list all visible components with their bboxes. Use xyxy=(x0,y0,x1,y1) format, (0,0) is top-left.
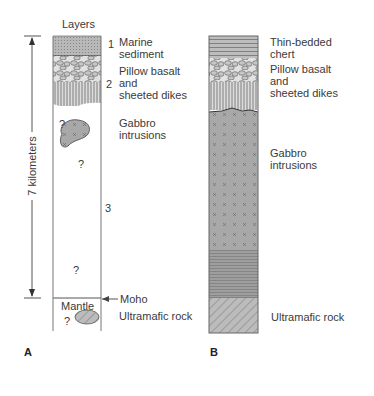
layer-2-number: 2 xyxy=(106,78,112,90)
panel-a-letter: A xyxy=(24,346,32,358)
gabbro-label-a: Gabbro intrusions xyxy=(119,117,166,141)
chert-layer xyxy=(209,36,258,58)
column-a xyxy=(53,36,101,331)
ultramafic-label-a: Ultramafic rock xyxy=(119,310,192,322)
chert-label: Thin-bedded chert xyxy=(270,36,332,60)
panel-b-letter: B xyxy=(210,346,218,358)
marine-sediment-layer xyxy=(53,36,101,56)
layer-3-number: 3 xyxy=(105,202,111,214)
pillow-basalt-label-a: Pillow basalt and sheeted dikes xyxy=(119,65,187,101)
moho-arrow xyxy=(102,296,118,302)
ultramafic-label-b: Ultramafic rock xyxy=(271,311,344,323)
unknown-marker: ? xyxy=(64,315,70,327)
scale-label: 7 kilometers xyxy=(26,126,38,206)
column-b xyxy=(209,36,258,333)
ultramafic-layer-b xyxy=(209,298,258,333)
gabbro-label-b: Gabbro intrusions xyxy=(270,147,317,171)
mantle-label: Mantle xyxy=(61,300,94,312)
pillow-basalt-layer-b xyxy=(209,58,258,82)
marine-sediment-label: Marine sediment xyxy=(119,36,164,60)
pillow-basalt-layer xyxy=(53,56,101,82)
unknown-marker: ? xyxy=(73,264,79,276)
unknown-marker: ? xyxy=(59,118,65,130)
layer-1-number: 1 xyxy=(108,38,114,50)
unknown-marker: ? xyxy=(78,158,84,170)
moho-label: Moho xyxy=(120,293,148,305)
layers-header: Layers xyxy=(62,18,95,30)
gabbro-layer-b xyxy=(209,108,258,250)
layered-gabbro-layer-b xyxy=(209,250,258,298)
pillow-basalt-label-b: Pillow basalt and sheeted dikes xyxy=(270,63,338,99)
ultramafic-blob xyxy=(75,310,99,324)
